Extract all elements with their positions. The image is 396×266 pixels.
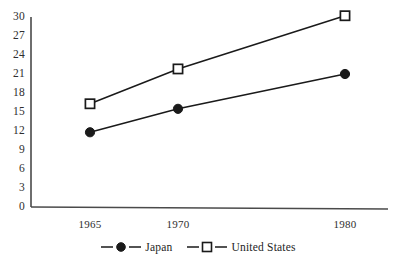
data-point-filled-circle[interactable] — [173, 104, 182, 113]
legend-label-united-states: United States — [231, 241, 295, 253]
legend-label-japan: Japan — [145, 241, 172, 253]
series-line — [90, 16, 345, 104]
series-united-states — [85, 11, 349, 108]
filled-circle-icon — [100, 240, 142, 254]
y-tick-label: 18 — [0, 87, 25, 99]
data-point-filled-circle[interactable] — [340, 69, 349, 78]
y-tick-label: 6 — [0, 163, 25, 175]
series-line — [90, 74, 345, 132]
y-tick-label: 21 — [0, 68, 25, 80]
y-tick-label: 27 — [0, 30, 25, 42]
data-point-open-square[interactable] — [173, 64, 182, 73]
y-tick-label: 30 — [0, 11, 25, 23]
x-tick-label: 1965 — [60, 219, 120, 230]
y-tick-label: 3 — [0, 182, 25, 194]
legend-item-united-states[interactable]: United States — [186, 240, 295, 254]
y-tick-label: 0 — [0, 201, 25, 213]
x-tick-label: 1970 — [148, 219, 208, 230]
y-tick-label: 9 — [0, 144, 25, 156]
y-tick-label: 12 — [0, 125, 25, 137]
data-point-filled-circle[interactable] — [85, 128, 94, 137]
legend-item-japan[interactable]: Japan — [100, 240, 172, 254]
y-tick-label: 15 — [0, 106, 25, 118]
x-axis-line — [31, 207, 388, 209]
open-square-icon — [186, 240, 228, 254]
series-layer — [85, 11, 349, 137]
data-point-open-square[interactable] — [85, 99, 94, 108]
y-tick-label: 24 — [0, 49, 25, 61]
data-point-open-square[interactable] — [340, 11, 349, 20]
axis-lines — [31, 17, 388, 209]
chart-legend: Japan United States — [0, 240, 396, 254]
series-japan — [85, 69, 349, 136]
x-tick-label: 1980 — [315, 219, 375, 230]
line-chart: 036912151821242730 196519701980 Japan Un… — [0, 0, 396, 266]
